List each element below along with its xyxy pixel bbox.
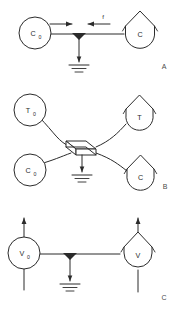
panel-c: V 0 V C [8,218,167,301]
panel-b-letter: B [163,183,168,190]
panel-c-node-v0-subscript: 0 [27,254,30,260]
panel-b-node-t0-label: T [26,106,31,115]
panel-a-node-c[interactable]: C [123,11,158,48]
panel-c-letter: C [161,294,166,301]
panel-b-link-c [96,153,127,171]
panel-b-node-c[interactable]: C [124,155,156,190]
panel-b: T 0 C 0 T C [14,94,168,190]
panel-b-node-t0[interactable]: T 0 [14,94,46,126]
circuit-diagram-figure: f C 0 C A [0,0,187,316]
panel-b-node-c-label: C [138,173,143,182]
panel-a: f C 0 C A [19,11,167,72]
panel-b-node-t0-subscript: 0 [33,111,36,117]
panel-b-ground [72,155,92,182]
panel-c-node-v0-label: V [20,249,25,258]
panel-b-node-c0[interactable]: C 0 [14,154,46,186]
panel-a-letter: A [162,63,167,70]
panel-b-node-t[interactable]: T [123,95,155,130]
panel-a-ground [69,36,89,72]
panel-c-ground [60,256,80,291]
panel-b-link-c0 [40,153,71,164]
panel-b-node-t-label: T [137,113,142,122]
panel-c-node-v[interactable]: V [121,232,155,267]
panel-b-node-c0-label: C [25,166,30,175]
panel-b-link-t [96,124,126,147]
panel-c-node-v-label: V [136,251,141,260]
panel-a-node-c0-label: C [30,29,35,38]
panel-c-node-v-shape [124,232,152,267]
panel-a-node-c0-subscript: 0 [39,34,42,40]
panel-a-node-c0[interactable]: C 0 [19,17,51,49]
panel-b-node-c0-subscript: 0 [34,171,37,177]
panel-a-node-c-label: C [137,30,142,39]
panel-a-flux-label: f [102,13,104,20]
panel-c-node-v0[interactable]: V 0 [8,237,40,269]
figure-container: f C 0 C A [0,0,187,316]
